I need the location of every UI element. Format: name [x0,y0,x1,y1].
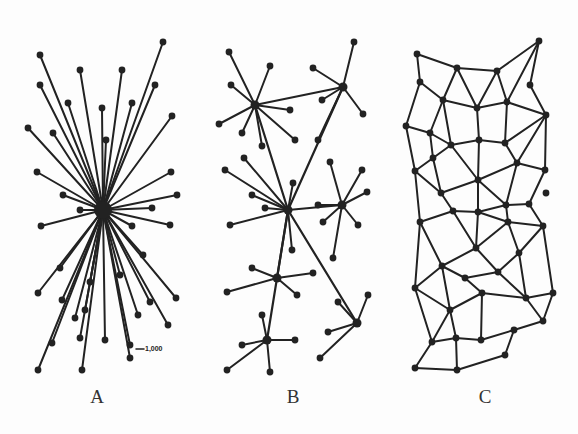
node-c [542,167,549,174]
node-b [319,97,326,104]
node-b [364,189,371,196]
node-a [87,279,94,286]
node-c [516,250,523,257]
node-c [450,208,457,215]
link-c [415,222,420,288]
link-c [415,266,442,288]
node-b [315,137,322,144]
link-c [545,115,546,170]
node-c [453,335,460,342]
node-a [79,367,86,374]
node-c [504,99,511,106]
node-a [50,130,57,137]
link-c [481,330,514,340]
node-a [135,312,142,319]
link-c [430,133,451,145]
node-c [505,219,512,226]
node-a [34,169,41,176]
link-c [465,272,498,278]
panel-label-c: C [479,386,492,408]
link-a [53,133,103,210]
link-c [456,338,481,340]
link-c [526,298,543,321]
network-diagram: A B C 1,000 [0,0,578,434]
node-a [37,52,44,59]
network-topology-graphic [0,0,578,434]
link-c [517,115,546,163]
link-c [529,204,543,226]
link-c [478,163,517,180]
node-c [527,82,534,89]
node-b [310,65,317,72]
node-b [359,167,366,174]
node-b [315,202,322,209]
node-b [226,49,233,56]
link-c [506,163,517,205]
link-c [450,293,482,310]
link-a [103,210,105,340]
link-b [244,158,288,210]
link-c [497,41,539,71]
node-b [292,337,299,344]
link-c [451,140,479,145]
link-c [477,102,507,108]
node-c [414,51,421,58]
node-a [129,100,136,107]
link-c [478,140,479,180]
node-c [494,68,501,75]
node-b [224,289,231,296]
node-a [60,192,67,199]
link-c [508,222,543,226]
link-c [476,248,498,272]
node-c [543,112,550,119]
node-a [77,335,84,342]
panel-label-a: A [90,386,104,408]
link-a [103,103,132,210]
node-b [330,255,337,262]
node-b [290,180,297,187]
link-c [406,82,420,126]
link-c [481,293,482,340]
hub-b [353,319,362,328]
node-a [127,342,134,349]
node-b [249,265,256,272]
link-c [442,266,450,310]
link-c [514,321,543,330]
link-a [40,55,103,210]
link-c [450,310,456,338]
node-b [310,270,317,277]
node-a [173,295,180,302]
node-c [412,285,419,292]
link-c [441,180,478,193]
link-c [517,163,545,170]
node-a [35,290,42,297]
node-a [174,192,181,199]
node-c [479,290,486,297]
link-b [330,162,342,205]
link-c [420,222,442,266]
hub-link-b [288,210,357,323]
link-c [479,140,505,143]
node-a [77,207,84,214]
hub-a [94,201,112,219]
node-b [259,312,266,319]
node-c [412,168,419,175]
node-c [476,137,483,144]
node-b [227,222,234,229]
link-c [420,211,453,222]
link-c [415,171,420,222]
node-b [224,367,231,374]
link-a [103,42,163,210]
node-c [448,142,455,149]
node-a [57,265,64,272]
node-a [127,355,134,362]
link-c [415,368,457,370]
node-a [117,272,124,279]
link-c [442,266,465,278]
node-c [540,318,547,325]
scale-annotation: 1,000 [145,345,163,352]
link-c [406,126,415,171]
link-c [417,54,420,82]
node-c [403,123,410,130]
node-c [439,263,446,270]
